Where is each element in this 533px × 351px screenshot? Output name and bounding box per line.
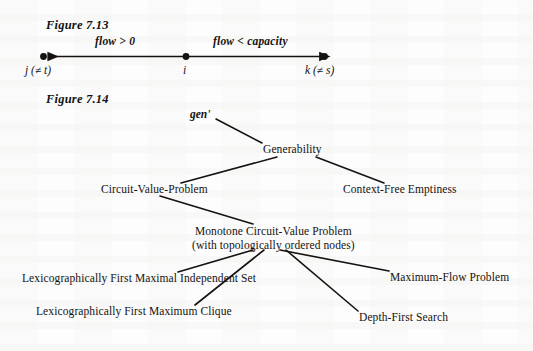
node-maximum-flow-problem: Maximum-Flow Problem xyxy=(390,271,509,285)
node-gen-prime: gen' xyxy=(190,108,210,122)
node-label-j: j (≠ t) xyxy=(25,64,51,78)
node-monotone-line-2: (with topologically ordered nodes) xyxy=(192,238,355,252)
edge-label-left-flow: flow > 0 xyxy=(95,35,135,49)
node-monotone-line-1: Monotone Circuit-Value Problem xyxy=(192,224,355,238)
figure-page: Figure 7.13 flow > 0 flow < capacity j (… xyxy=(0,0,533,351)
node-context-free-emptiness: Context-Free Emptiness xyxy=(343,183,457,197)
node-dot-k xyxy=(321,53,328,60)
node-circuit-value-problem: Circuit-Value-Problem xyxy=(101,183,208,197)
edge-circuit-value-problem-to-monotone xyxy=(160,196,253,224)
node-label-k: k (≠ s) xyxy=(305,64,334,78)
figure-713-graph xyxy=(40,53,328,60)
figure-713-caption: Figure 7.13 xyxy=(46,18,109,33)
figure-714-caption: Figure 7.14 xyxy=(46,92,109,107)
node-lex-first-maximal-independent-set: Lexicographically First Maximal Independ… xyxy=(22,272,256,286)
node-dot-j xyxy=(40,53,47,60)
edge-gen-to-generability xyxy=(216,119,262,143)
node-monotone-circuit-value-problem: Monotone Circuit-Value Problem (with top… xyxy=(192,224,355,252)
edge-generability-to-circuit-value-problem xyxy=(181,157,277,183)
node-label-i: i xyxy=(183,64,186,78)
node-dot-i xyxy=(183,53,190,60)
node-generability: Generability xyxy=(263,143,322,157)
edge-monotone-to-maximum-flow-problem xyxy=(280,250,389,271)
edge-label-right-flow: flow < capacity xyxy=(213,35,288,49)
node-depth-first-search: Depth-First Search xyxy=(359,311,448,325)
edge-monotone-to-depth-first-search xyxy=(286,250,358,311)
edge-generability-to-context-free-emptiness xyxy=(316,157,384,183)
figure-vector-layer xyxy=(0,0,533,351)
node-lex-first-maximum-clique: Lexicographically First Maximum Clique xyxy=(36,305,232,319)
